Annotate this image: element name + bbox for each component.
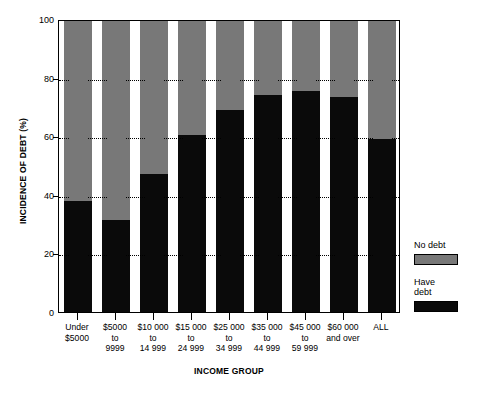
bar-segment-have-debt	[292, 91, 320, 312]
y-axis-tick-label: 80	[14, 74, 54, 84]
bar-segment-have-debt	[216, 110, 244, 312]
bar-stack	[254, 21, 282, 312]
bar-stack	[216, 21, 244, 312]
y-axis-tick-label: 0	[14, 308, 54, 318]
bar-stack	[178, 21, 206, 312]
bar-stack	[292, 21, 320, 312]
x-axis-tick-mark	[267, 313, 268, 320]
legend-label: Have debt	[414, 277, 494, 298]
chart-figure: INCIDENCE OF DEBT (%) 020406080100 Under…	[0, 0, 500, 394]
bar-stack	[330, 21, 358, 312]
bar-segment-have-debt	[178, 135, 206, 312]
legend-entry: No debt	[414, 240, 494, 265]
x-axis-tick-mark	[77, 313, 78, 320]
legend-label: No debt	[414, 240, 494, 251]
bar-segment-have-debt	[254, 95, 282, 312]
legend-swatch	[414, 254, 458, 265]
bar-stack	[140, 21, 168, 312]
plot-area	[58, 20, 400, 313]
chart-legend: No debtHave debt	[414, 240, 494, 324]
plot-inner	[59, 21, 399, 312]
bar-segment-have-debt	[330, 97, 358, 312]
bar-segment-have-debt	[64, 201, 92, 312]
y-axis-title: INCIDENCE OF DEBT (%)	[18, 71, 28, 271]
bar-stack	[64, 21, 92, 312]
bar-stack	[368, 21, 396, 312]
legend-swatch	[414, 301, 458, 312]
legend-entry: Have debt	[414, 277, 494, 312]
x-axis-tick-mark	[381, 313, 382, 320]
bar-stack	[102, 21, 130, 312]
bar-segment-have-debt	[140, 174, 168, 312]
x-axis-tick-label: ALL	[353, 322, 409, 333]
x-axis-tick-mark	[343, 313, 344, 320]
x-axis-tick-mark	[153, 313, 154, 320]
x-axis-title: INCOME GROUP	[58, 366, 400, 376]
y-axis-tick-label: 20	[14, 249, 54, 259]
y-axis-tick-label: 100	[14, 15, 54, 25]
bar-segment-have-debt	[368, 139, 396, 312]
y-axis-tick-label: 40	[14, 191, 54, 201]
x-axis-tick-mark	[229, 313, 230, 320]
x-axis-tick-mark	[191, 313, 192, 320]
bar-segment-have-debt	[102, 220, 130, 312]
y-axis-tick-label: 60	[14, 132, 54, 142]
x-axis-tick-mark	[115, 313, 116, 320]
x-axis-tick-mark	[305, 313, 306, 320]
